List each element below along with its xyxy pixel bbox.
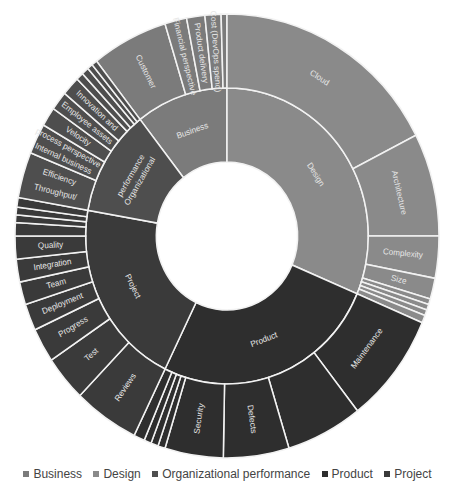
sunburst-chart: BusinessDesignProductProjectOrganization… <box>0 0 455 487</box>
legend-item-design: Design <box>93 467 140 481</box>
legend-swatch-project <box>384 471 390 477</box>
chart-legend: Business Design Organizational performan… <box>0 467 455 481</box>
legend-swatch-product <box>322 471 328 477</box>
legend-label: Project <box>394 467 431 481</box>
legend-swatch-business <box>23 471 29 477</box>
legend-swatch-design <box>93 471 99 477</box>
legend-label: Design <box>103 467 140 481</box>
sunburst-rings <box>15 14 439 458</box>
legend-item-project: Project <box>384 467 431 481</box>
legend-label: Business <box>33 467 82 481</box>
legend-item-business: Business <box>23 467 82 481</box>
legend-item-organizational-performance: Organizational performance <box>152 467 310 481</box>
legend-swatch-organizational-performance <box>152 471 158 477</box>
legend-label: Organizational performance <box>162 467 310 481</box>
segment-label-quality: Quality <box>38 239 65 251</box>
legend-item-product: Product <box>322 467 373 481</box>
legend-label: Product <box>332 467 373 481</box>
